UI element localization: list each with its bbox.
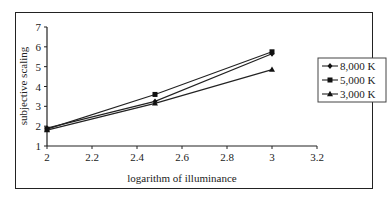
- x-tick-label: 3: [269, 151, 275, 163]
- x-tick-label: 2.8: [220, 151, 234, 163]
- y-tick-label: 1: [36, 140, 42, 152]
- y-tick-label: 6: [36, 41, 42, 53]
- x-tick-label: 2.4: [130, 151, 144, 163]
- y-axis-title: subjective scaling: [17, 46, 29, 125]
- legend-label: 5,000 K: [340, 74, 376, 86]
- legend: 8,000 K5,000 K3,000 K: [318, 58, 386, 102]
- y-tick-label: 2: [36, 120, 42, 132]
- x-tick-label: 2: [44, 151, 50, 163]
- y-tick-label: 5: [36, 61, 42, 73]
- x-axis-ticks: 22.22.42.62.833.2: [44, 146, 324, 163]
- legend-label: 3,000 K: [340, 88, 376, 100]
- x-axis-title: logarithm of illuminance: [127, 172, 236, 184]
- y-tick-label: 4: [36, 81, 42, 93]
- legend-label: 8,000 K: [340, 60, 376, 72]
- x-tick-label: 2.2: [85, 151, 99, 163]
- axes: [47, 27, 317, 146]
- series-5000k: [45, 49, 275, 131]
- y-tick-label: 7: [36, 21, 42, 33]
- line-chart: 1234567 22.22.42.62.833.2 subjective sca…: [0, 0, 391, 204]
- y-tick-label: 3: [36, 100, 42, 112]
- y-axis-ticks: 1234567: [36, 21, 48, 152]
- x-tick-label: 3.2: [310, 151, 324, 163]
- x-tick-label: 2.6: [175, 151, 189, 163]
- data-series: [44, 49, 275, 132]
